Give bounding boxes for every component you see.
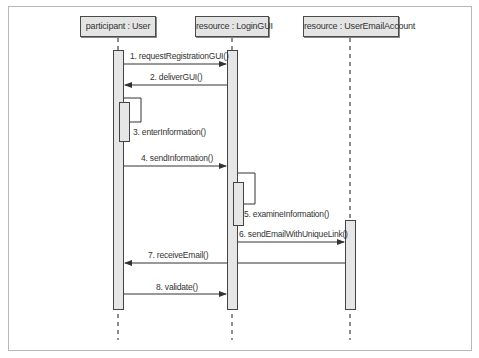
logingui-self-activation-bar — [233, 182, 244, 226]
message-2-label: 2. deliverGUI() — [150, 72, 202, 82]
logingui-activation-bar — [227, 50, 238, 310]
message-4-label: 4. sendInformation() — [141, 153, 213, 163]
lifelines-and-arrows — [0, 0, 479, 358]
message-1-label: 1. requestRegistrationGUI() — [130, 51, 229, 61]
message-8-label: 8. validate() — [156, 282, 198, 292]
message-5-label: 5. examineInformation() — [244, 209, 329, 219]
message-3-label: 3. enterInformation() — [133, 127, 206, 137]
message-7-label: 7. receiveEmail() — [148, 250, 208, 260]
user-self-activation-bar — [119, 102, 130, 142]
user-activation-bar — [113, 50, 124, 310]
message-6-label: 6. sendEmailWithUniqueLink() — [239, 229, 348, 239]
